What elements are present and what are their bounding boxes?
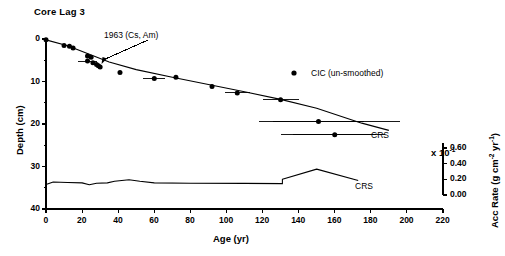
acc-rate-tick-label-0.60: 0.60 xyxy=(450,142,467,152)
x-tick-label-120: 120 xyxy=(255,215,269,225)
x-tick-label-80: 80 xyxy=(185,215,194,225)
data-point-cic xyxy=(62,43,67,48)
y-axis-right-label: Acc Rate (g cm-2 yr-1) xyxy=(488,133,500,228)
acc-rate-mid: yr xyxy=(489,142,500,154)
x-tick-label-40: 40 xyxy=(113,215,122,225)
data-point-cic xyxy=(44,37,49,42)
acc-rate-tick-label-0.40: 0.40 xyxy=(450,158,467,168)
y-tick-label-10: 10 xyxy=(14,76,40,86)
acc-rate-close: ) xyxy=(489,133,500,136)
annotation-1963: 1963 (Cs, Am) xyxy=(104,30,158,40)
legend-label-cic: CIC (un-smoothed) xyxy=(311,68,383,78)
x-axis-label: Age (yr) xyxy=(213,233,249,244)
figure-root: Core Lag 3 Depth (cm) Age (yr) x 10-1 Ac… xyxy=(0,0,505,256)
acc-rate-sup-2: -1 xyxy=(488,136,495,142)
data-point-cic xyxy=(210,84,215,89)
y-tick-label-40: 40 xyxy=(14,203,40,213)
x-tick-label-140: 140 xyxy=(291,215,305,225)
data-point-cic xyxy=(89,55,94,60)
chart-canvas xyxy=(0,0,505,256)
x-tick-label-100: 100 xyxy=(219,215,233,225)
x-tick-label-200: 200 xyxy=(399,215,413,225)
multiplier-base: x 10 xyxy=(431,147,450,158)
x-tick-label-20: 20 xyxy=(77,215,86,225)
x-tick-label-60: 60 xyxy=(149,215,158,225)
data-point-cic xyxy=(152,76,157,81)
data-point-cic xyxy=(117,70,122,75)
crs-acc-rate-line xyxy=(46,169,358,185)
acc-rate-tick-label-0.00: 0.00 xyxy=(450,189,467,199)
data-point-cic xyxy=(235,90,240,95)
data-point-cic xyxy=(85,59,90,64)
data-point-cic xyxy=(71,45,76,50)
x-tick-label-0: 0 xyxy=(44,215,49,225)
data-point-cic xyxy=(98,65,103,70)
y-tick-label-30: 30 xyxy=(14,161,40,171)
acc-rate-tick-label-0.20: 0.20 xyxy=(450,173,467,183)
y-tick-label-0: 0 xyxy=(14,33,40,43)
y-axis-left-label: Depth (cm) xyxy=(14,105,25,155)
x-tick-label-180: 180 xyxy=(363,215,377,225)
data-point-cic xyxy=(173,75,178,80)
x-tick-label-220: 220 xyxy=(436,215,450,225)
acc-rate-sup-1: -2 xyxy=(488,154,495,160)
crs-depth-label: CRS xyxy=(371,130,389,140)
crs-accrate-label: CRS xyxy=(355,181,373,191)
annotation-arrow-line xyxy=(104,40,148,60)
acc-rate-text: Acc Rate (g cm xyxy=(489,159,500,228)
x-tick-label-160: 160 xyxy=(327,215,341,225)
legend-marker-icon xyxy=(289,68,299,78)
y-tick-label-20: 20 xyxy=(14,118,40,128)
crs-depth-model-line xyxy=(46,40,389,131)
data-point-cic xyxy=(278,97,283,102)
